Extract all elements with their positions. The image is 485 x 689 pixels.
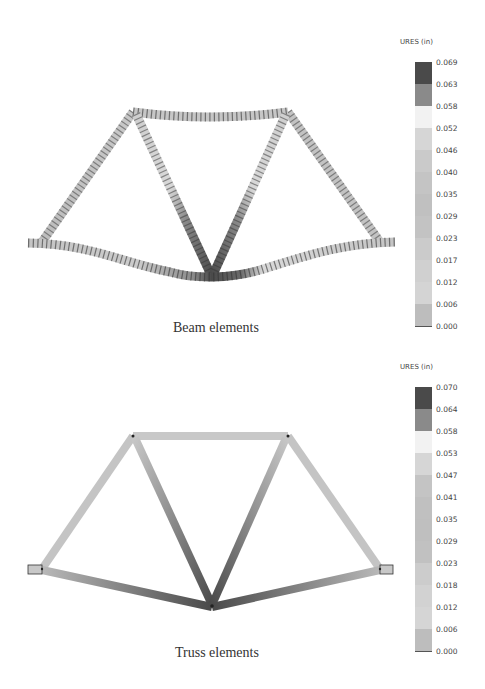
beam-truss-displacement-plot [0, 0, 400, 300]
beam-legend-segment [415, 84, 432, 106]
legend-label: 0.053 [436, 449, 457, 458]
legend-label: 0.058 [436, 427, 457, 436]
beam-legend-segment [415, 106, 432, 128]
legend-label: 0.070 [436, 383, 457, 392]
legend-label: 0.017 [436, 256, 457, 265]
truss-legend: URES (in) 0.070 0.064 0.058 0.053 0.047 … [400, 363, 485, 663]
legend-label: 0.006 [436, 300, 457, 309]
legend-label: 0.046 [436, 146, 457, 155]
beam-legend-segment [415, 260, 432, 282]
legend-label: 0.006 [436, 625, 457, 634]
beam-legend-title: URES (in) [400, 38, 433, 46]
legend-label: 0.041 [436, 493, 457, 502]
legend-label: 0.029 [436, 537, 457, 546]
legend-label: 0.012 [436, 278, 457, 287]
legend-label: 0.052 [436, 124, 457, 133]
legend-label: 0.023 [436, 559, 457, 568]
beam-legend-segment [415, 172, 432, 194]
beam-caption: Beam elements [173, 320, 259, 336]
beam-legend-segment [415, 216, 432, 238]
truss-displacement-plot [0, 345, 400, 645]
truss-legend-segment [415, 563, 432, 585]
beam-legend-segment [415, 194, 432, 216]
legend-label: 0.035 [436, 515, 457, 524]
legend-label: 0.047 [436, 471, 457, 480]
truss-legend-segment [415, 519, 432, 541]
legend-label: 0.023 [436, 234, 457, 243]
truss-caption: Truss elements [175, 645, 259, 661]
beam-legend-colorbar [415, 62, 432, 327]
legend-label: 0.000 [436, 647, 457, 656]
legend-label: 0.058 [436, 102, 457, 111]
beam-elements-panel: Beam elements URES (in) 0.069 0.063 0.05… [0, 0, 485, 345]
beam-legend-segment [415, 62, 432, 84]
legend-label: 0.012 [436, 603, 457, 612]
legend-label: 0.029 [436, 212, 457, 221]
beam-legend-segment [415, 128, 432, 150]
beam-legend: URES (in) 0.069 0.063 0.058 0.052 0.046 … [400, 38, 485, 338]
truss-legend-segment [415, 453, 432, 475]
truss-legend-segment [415, 387, 432, 409]
beam-legend-segment [415, 150, 432, 172]
truss-legend-segment [415, 585, 432, 607]
truss-legend-title: URES (in) [400, 363, 433, 371]
truss-legend-segment [415, 607, 432, 629]
legend-label: 0.035 [436, 190, 457, 199]
truss-legend-segment [415, 629, 432, 651]
truss-legend-segment [415, 541, 432, 563]
legend-label: 0.040 [436, 168, 457, 177]
legend-label: 0.000 [436, 322, 457, 331]
legend-label: 0.064 [436, 405, 457, 414]
truss-legend-segment [415, 431, 432, 453]
beam-legend-segment [415, 282, 432, 304]
truss-legend-segment [415, 475, 432, 497]
legend-label: 0.063 [436, 80, 457, 89]
truss-legend-segment [415, 409, 432, 431]
beam-legend-segment [415, 238, 432, 260]
truss-elements-panel: Truss elements URES (in) 0.070 0.064 0.0… [0, 345, 485, 689]
truss-legend-colorbar [415, 387, 432, 652]
truss-legend-segment [415, 497, 432, 519]
legend-label: 0.069 [436, 58, 457, 67]
legend-label: 0.018 [436, 581, 457, 590]
beam-legend-segment [415, 304, 432, 326]
